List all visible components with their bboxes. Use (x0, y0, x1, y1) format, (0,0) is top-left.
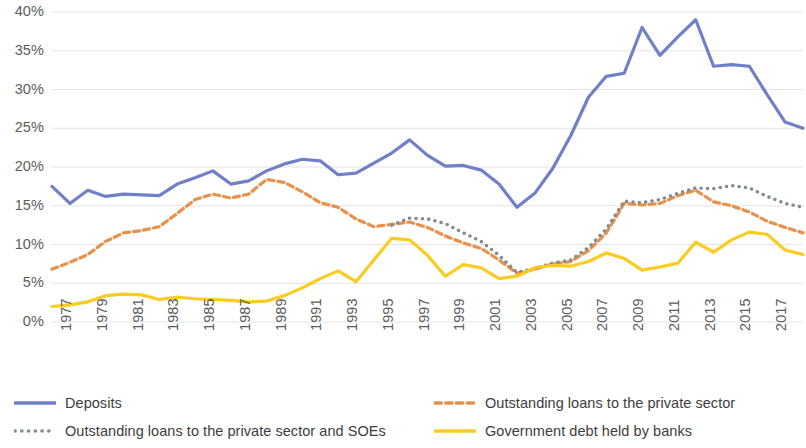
x-axis-tick-label: 1995 (380, 298, 396, 331)
legend-label: Outstanding loans to the private sector (485, 395, 735, 411)
x-axis-tick-label: 1981 (130, 298, 146, 331)
x-axis-tick-label: 2001 (487, 298, 503, 331)
solid-blue-line-icon (14, 396, 56, 410)
y-axis-tick-label: 25% (0, 119, 44, 135)
x-axis-tick-label: 1977 (58, 298, 74, 331)
dotted-gray-line-icon (14, 424, 56, 438)
legend-label: Outstanding loans to the private sector … (65, 423, 386, 439)
chart-legend: DepositsOutstanding loans to the private… (0, 392, 806, 448)
x-axis-tick-label: 2011 (666, 299, 682, 331)
plot-svg (0, 0, 806, 330)
x-axis-tick-label: 2003 (523, 298, 539, 331)
legend-label: Government debt held by banks (485, 423, 692, 439)
x-axis-tick-label: 2005 (559, 298, 575, 331)
y-axis-tick-label: 30% (0, 81, 44, 97)
x-axis-tick-label: 1985 (201, 298, 217, 331)
y-axis-tick-label: 15% (0, 197, 44, 213)
legend-label: Deposits (65, 395, 122, 411)
legend-item[interactable]: Government debt held by banks (434, 420, 692, 442)
x-axis-tick-label: 1997 (416, 298, 432, 331)
legend-item[interactable]: Outstanding loans to the private sector (434, 392, 735, 414)
x-axis-tick-label: 2013 (702, 298, 718, 331)
series-line (52, 232, 803, 306)
y-axis-tick-label: 10% (0, 236, 44, 252)
series-line (52, 20, 803, 208)
plot-area (0, 0, 806, 330)
x-axis-tick-label: 2009 (630, 298, 646, 331)
line-chart: 40%35%30%25%20%15%10%5%0% 19771979198119… (0, 0, 806, 448)
y-axis-tick-label: 0% (0, 313, 44, 329)
series-line (392, 186, 803, 273)
x-axis-tick-label: 1991 (308, 298, 324, 331)
solid-yellow-line-icon (434, 424, 476, 438)
x-axis-tick-label: 1993 (344, 298, 360, 331)
x-axis-tick-label: 2017 (773, 298, 789, 331)
x-axis-tick-label: 1987 (237, 298, 253, 331)
legend-item[interactable]: Outstanding loans to the private sector … (14, 420, 386, 442)
y-axis-tick-label: 40% (0, 3, 44, 19)
y-axis-tick-label: 20% (0, 158, 44, 174)
x-axis-tick-label: 1983 (165, 298, 181, 331)
y-axis-tick-label: 5% (0, 274, 44, 290)
x-axis-tick-label: 1989 (273, 298, 289, 331)
dashed-orange-line-icon (434, 396, 476, 410)
legend-item[interactable]: Deposits (14, 392, 122, 414)
x-axis-tick-label: 1979 (94, 298, 110, 331)
y-axis-tick-label: 35% (0, 42, 44, 58)
x-axis-tick-label: 2007 (594, 298, 610, 331)
x-axis-tick-label: 1999 (451, 298, 467, 331)
x-axis-tick-label: 2015 (737, 298, 753, 331)
